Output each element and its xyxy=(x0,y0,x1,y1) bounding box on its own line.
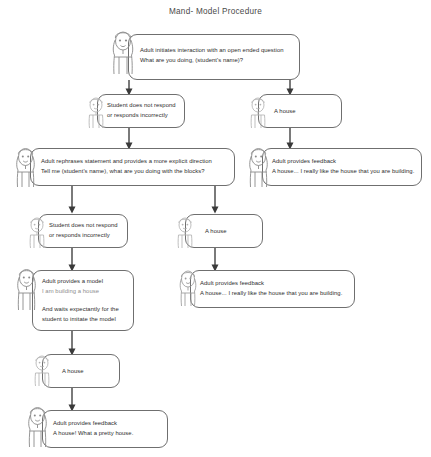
node-line: Student does not respond xyxy=(107,100,176,110)
adult-figure-icon xyxy=(245,145,272,189)
student-figure-icon xyxy=(173,216,197,250)
node-line: Student does not respond xyxy=(49,220,118,230)
node-line: Adult rephrases statement and provides a… xyxy=(41,156,212,166)
adult-figure-icon xyxy=(24,404,51,449)
node-line: Adult initiates interaction with an open… xyxy=(140,45,284,55)
adult-figure-icon xyxy=(108,28,138,78)
node-line: Adult provides feedback xyxy=(272,156,414,166)
student-figure-icon xyxy=(246,96,270,130)
node-student-a-house-1[interactable]: A house xyxy=(258,94,342,128)
node-line: Tell me (student's name), what are you d… xyxy=(41,166,212,176)
node-student-no-respond-1[interactable]: Student does not respond or responds inc… xyxy=(97,94,185,128)
adult-figure-icon xyxy=(13,266,40,312)
node-line: Adult provides feedback xyxy=(53,418,133,428)
node-line: or responds incorrectly xyxy=(107,110,176,120)
adult-figure-icon xyxy=(176,268,200,308)
node-line: A house xyxy=(274,106,296,116)
node-line: I am building a house xyxy=(42,286,119,296)
student-figure-icon xyxy=(84,96,108,130)
node-line: A house... I really like the house that … xyxy=(200,288,342,298)
node-line: A house... I really like the house that … xyxy=(272,166,414,176)
node-line: And waits expectantly for the xyxy=(42,304,119,314)
node-adult-feedback-3[interactable]: Adult provides feedback A house! What a … xyxy=(42,410,168,448)
node-adult-rephrases[interactable]: Adult rephrases statement and provides a… xyxy=(30,148,235,186)
node-line: Adult provides a model xyxy=(42,276,119,286)
adult-figure-icon xyxy=(12,145,39,189)
node-adult-feedback-1[interactable]: Adult provides feedback A house... I rea… xyxy=(262,148,422,186)
node-line: or responds incorrectly xyxy=(49,230,118,240)
node-bubble xyxy=(258,94,342,128)
node-line: A house xyxy=(205,226,227,236)
node-line: What are you doing, (student's name)? xyxy=(140,55,284,65)
node-adult-feedback-2[interactable]: Adult provides feedback A house... I rea… xyxy=(190,270,355,308)
node-adult-initiates[interactable]: Adult initiates interaction with an open… xyxy=(128,34,300,80)
node-adult-model[interactable]: Adult provides a model I am building a h… xyxy=(32,270,134,331)
flowchart-canvas: Mand- Model Procedure Adult i xyxy=(0,0,431,457)
node-line: A house xyxy=(62,366,84,376)
node-line: student to imitate the model xyxy=(42,314,119,324)
node-student-no-respond-2[interactable]: Student does not respond or responds inc… xyxy=(38,214,128,248)
student-figure-icon xyxy=(25,216,49,250)
student-figure-icon xyxy=(30,354,54,388)
page-title: Mand- Model Procedure xyxy=(0,7,431,16)
node-line: A house! What a pretty house. xyxy=(53,428,133,438)
node-line: Adult provides feedback xyxy=(200,278,342,288)
